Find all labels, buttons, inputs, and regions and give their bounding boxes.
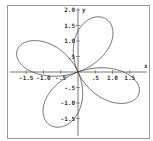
x-tick-label: -1.5 bbox=[19, 74, 34, 81]
y-tick-label: 1.5 bbox=[64, 22, 75, 29]
polar-rose-chart: -1.5-1.0-.5.51.01.52.01.51.0.5-.5-1.0-1.… bbox=[0, 0, 153, 141]
y-axis-label: y bbox=[82, 6, 86, 14]
x-axis-label: x bbox=[144, 62, 148, 69]
y-tick-label: -.5 bbox=[64, 84, 75, 91]
y-tick-label: 2.0 bbox=[64, 6, 75, 13]
y-tick-label: -1.0 bbox=[61, 99, 76, 106]
x-tick-label: .5 bbox=[92, 74, 100, 81]
x-tick-label: 1.0 bbox=[107, 74, 118, 81]
y-tick-label: -1.5 bbox=[61, 115, 76, 122]
